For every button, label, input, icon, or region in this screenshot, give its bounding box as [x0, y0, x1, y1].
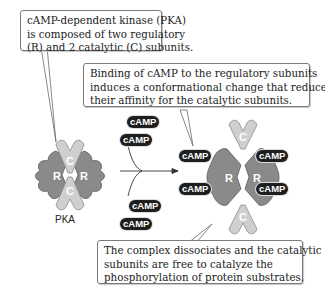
regulatory-label-left-bound: R [225, 172, 233, 184]
catalytic-label-free-top: C [239, 131, 247, 143]
camp-bound: cAMP [256, 183, 288, 195]
dissociated-complex: R R C C [207, 120, 279, 234]
callout-line: The complex dissociates and the catalyti… [104, 244, 296, 258]
camp-molecule: cAMP [127, 116, 159, 128]
callout-pointer-pka [41, 47, 56, 142]
regulatory-subunit-left-bound [207, 149, 241, 206]
callout-line: (R) and 2 catalytic (C) subunits. [27, 41, 155, 55]
camp-molecule: cAMP [120, 218, 152, 230]
catalytic-label-free-bottom: C [239, 211, 247, 223]
camp-bound: cAMP [256, 150, 288, 162]
callout-line: subunits are free to catalyze the [104, 258, 296, 272]
callout-line: their affinity for the catalytic subunit… [90, 94, 303, 108]
regulatory-label-right: R [80, 170, 88, 182]
camp-molecule: cAMP [120, 134, 152, 146]
regulatory-label-left: R [53, 170, 61, 182]
callout-line: is composed of two regulatory [27, 28, 155, 42]
callout-line: induces a conformational change that red… [90, 81, 303, 95]
reaction-arrow [120, 146, 178, 196]
pka-label: PKA [55, 214, 75, 225]
callout-line: phosphorylation of protein substrates. [104, 271, 296, 285]
callout-pointer-binding [180, 110, 193, 146]
camp-bound: cAMP [179, 150, 211, 162]
pka-holoenzyme: R R C C [36, 140, 105, 210]
callout-line: cAMP-dependent kinase (PKA) [27, 14, 155, 28]
callout-dissociation: The complex dissociates and the catalyti… [97, 240, 303, 284]
callout-line: Binding of cAMP to the regulatory subuni… [90, 67, 303, 81]
camp-molecule: cAMP [129, 200, 161, 212]
callout-camp-binding: Binding of cAMP to the regulatory subuni… [83, 63, 310, 107]
camp-bound: cAMP [179, 183, 211, 195]
callout-pka-composition: cAMP-dependent kinase (PKA) is composed … [20, 10, 162, 51]
catalytic-label-top: C [66, 155, 74, 167]
catalytic-label-bottom: C [66, 185, 74, 197]
